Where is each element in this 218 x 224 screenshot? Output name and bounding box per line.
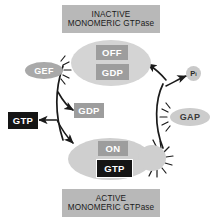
on-state-label: ON xyxy=(98,141,128,156)
active-gtpase-effector-lobe xyxy=(138,145,166,171)
off-state-label: OFF xyxy=(96,45,128,60)
phosphate-subscript: i xyxy=(195,71,196,77)
bound-gtp-label: GTP xyxy=(96,159,133,178)
gap-label: GAP xyxy=(170,108,210,126)
active-state-banner: ACTIVE MONOMERIC GTPase xyxy=(62,189,160,217)
free-gdp-label: GDP xyxy=(74,103,104,118)
inactive-banner-line2: MONOMERIC GTPase xyxy=(68,19,155,28)
inactive-banner-line1: INACTIVE xyxy=(92,10,131,19)
free-gtp-label: GTP xyxy=(7,111,39,130)
gtpase-cycle-diagram: INACTIVE MONOMERIC GTPase ACTIVE MONOMER… xyxy=(0,0,218,224)
gef-label: GEF xyxy=(25,62,63,79)
active-banner-line1: ACTIVE xyxy=(96,194,126,203)
inactive-state-banner: INACTIVE MONOMERIC GTPase xyxy=(62,5,160,33)
active-banner-line2: MONOMERIC GTPase xyxy=(68,203,155,212)
bound-gdp-label: GDP xyxy=(96,64,129,80)
phosphate-label: Pi xyxy=(186,66,201,81)
